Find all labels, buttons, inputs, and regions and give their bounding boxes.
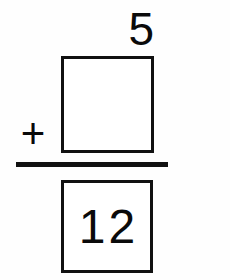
first-addend-label: 5 [96,6,154,52]
sum-rule-line [16,162,168,167]
plus-operator-icon: + [19,113,47,155]
addition-problem-worksheet: 5 + 12 [0,0,230,280]
sum-box[interactable]: 12 [61,180,153,273]
missing-addend-input-box[interactable] [61,56,154,153]
sum-value: 12 [64,203,150,251]
